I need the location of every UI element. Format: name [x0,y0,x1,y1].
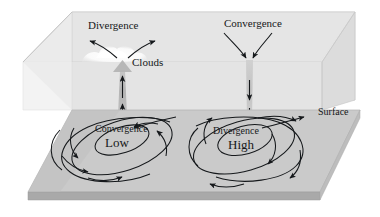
label-convergence-surface: Convergence [95,124,148,134]
ground-front-edge [28,192,320,200]
upper-atmosphere-box [23,12,355,110]
label-clouds: Clouds [132,57,163,68]
figure-canvas: Divergence Convergence Clouds Surface Co… [0,0,380,217]
label-low: Low [105,136,129,149]
label-surface: Surface [318,107,349,117]
label-divergence-aloft: Divergence [88,20,139,31]
box-left-face [23,12,72,110]
label-high: High [228,138,254,151]
label-divergence-surface: Divergence [213,126,259,136]
label-convergence-aloft: Convergence [224,18,282,29]
